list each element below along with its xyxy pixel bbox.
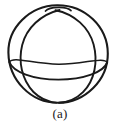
sphere-outline-path bbox=[8, 5, 107, 103]
sphere-diagram bbox=[0, 0, 120, 112]
figure-container: (a) bbox=[0, 0, 120, 128]
equator-far-path bbox=[9, 60, 107, 64]
meridian-right-path bbox=[56, 10, 96, 103]
figure-caption: (a) bbox=[0, 106, 120, 122]
meridian-left-path bbox=[21, 10, 60, 103]
